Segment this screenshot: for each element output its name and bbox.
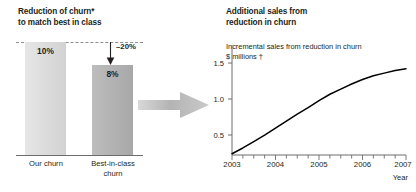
churn-reduction-panel: Reduction of churn* to match best in cla… xyxy=(0,0,150,192)
bar-our-churn: 10% xyxy=(25,42,66,155)
ytick-label-1-5: 1.5 xyxy=(200,59,224,68)
xtick-label-2006: 2006 xyxy=(348,160,378,169)
xtick-label-2003: 2003 xyxy=(217,160,247,169)
incremental-sales-line-chart: 0.5 1.0 1.5 2003 2004 2005 2006 2007 Yea… xyxy=(200,0,416,192)
xtick-label-2005: 2005 xyxy=(304,160,334,169)
x-axis-caption: Year xyxy=(393,173,408,182)
ytick-label-1-0: 1.0 xyxy=(200,95,224,104)
xtick-label-2007: 2007 xyxy=(388,160,416,169)
category-label-our-churn: Our churn xyxy=(18,159,74,169)
ytick-label-0-5: 0.5 xyxy=(200,131,224,140)
incremental-sales-panel: Additional sales from reduction in churn… xyxy=(200,0,416,192)
bar-chart-baseline xyxy=(16,155,143,156)
delta-percentage-label: –20% xyxy=(116,42,136,51)
xtick-label-2004: 2004 xyxy=(261,160,291,169)
delta-down-arrow-icon xyxy=(106,42,115,66)
churn-bar-chart: 10% 8% –20% Our churn Best-in-class chur… xyxy=(0,0,150,192)
bar-best-in-class-churn-value: 8% xyxy=(92,69,133,79)
category-label-best-in-class-churn: Best-in-class churn xyxy=(84,159,142,178)
bar-best-in-class-churn: 8% xyxy=(92,65,133,155)
bar-our-churn-value: 10% xyxy=(25,46,66,56)
